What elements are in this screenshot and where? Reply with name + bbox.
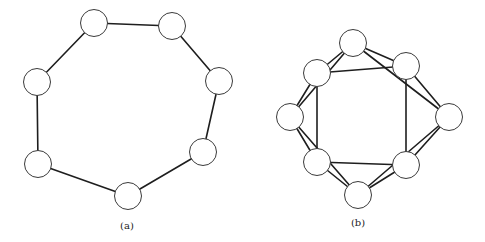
node-B	[345, 182, 372, 209]
node-T	[340, 30, 367, 57]
graph-figure	[0, 0, 485, 242]
node-a0	[81, 10, 108, 37]
caption-a: (a)	[120, 220, 134, 231]
node-a3	[190, 139, 217, 166]
node-a1	[159, 13, 186, 40]
graph-b-octagon	[277, 30, 463, 209]
edge-a4-a5	[38, 164, 128, 196]
graph-a-edges	[37, 23, 219, 196]
caption-b: (b)	[351, 217, 365, 228]
node-a5	[25, 151, 52, 178]
node-UR	[393, 53, 420, 80]
node-R	[436, 104, 463, 131]
node-a4	[115, 183, 142, 210]
node-a2	[206, 68, 233, 95]
node-LL	[304, 149, 331, 176]
node-UL	[304, 60, 331, 87]
node-L	[277, 104, 304, 131]
node-a6	[24, 69, 51, 96]
node-LR	[393, 152, 420, 179]
graph-a-cycle	[24, 10, 233, 210]
graph-a-nodes	[24, 10, 233, 210]
